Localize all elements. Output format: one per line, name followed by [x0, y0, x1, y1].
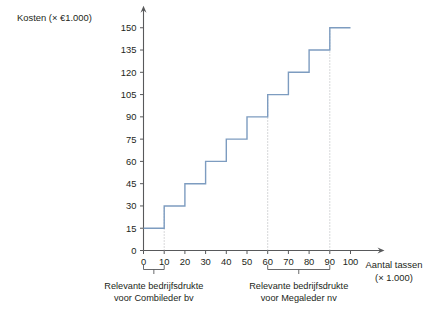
- x-tick-label: 90: [325, 256, 335, 267]
- x-tick-label: 30: [200, 256, 210, 267]
- step-cost-chart: Kosten (× €1.000) 0102030405060708090100…: [0, 0, 436, 325]
- range-caption-line1-combileder: Relevante bedrijfsdrukte: [104, 281, 203, 291]
- range-bracket-megaleder: [268, 265, 330, 270]
- x-tick-label: 10: [159, 256, 169, 267]
- x-axis-title: Aantal tassen: [366, 259, 423, 270]
- y-axis-tick-labels: 0153045607590105120135150: [121, 22, 137, 256]
- x-tick-label: 70: [283, 256, 293, 267]
- x-tick-label: 40: [221, 256, 231, 267]
- y-tick-label: 45: [126, 178, 136, 189]
- step-series: [144, 28, 351, 228]
- y-tick-label: 135: [121, 44, 137, 55]
- range-caption-line1-megaleder: Relevante bedrijfsdrukte: [249, 281, 348, 291]
- range-caption-line2-megaleder: voor Megaleder nv: [261, 293, 337, 303]
- y-tick-label: 60: [126, 156, 136, 167]
- y-tick-label: 90: [126, 111, 136, 122]
- x-tick-label: 0: [141, 256, 146, 267]
- y-tick-label: 75: [126, 134, 136, 145]
- x-tick-label: 20: [180, 256, 190, 267]
- x-axis-tick-labels: 0102030405060708090100: [141, 256, 358, 267]
- step-series-line: [144, 28, 351, 228]
- x-tick-label: 50: [242, 256, 252, 267]
- y-tick-label: 15: [126, 223, 136, 234]
- y-tick-label: 120: [121, 67, 137, 78]
- y-tick-label: 0: [131, 245, 136, 256]
- x-tick-label: 100: [343, 256, 359, 267]
- range-annotations: Relevante bedrijfsdruktevoor Combileder …: [104, 265, 348, 303]
- axes: [140, 6, 385, 254]
- range-caption-line2-combileder: voor Combileder bv: [114, 293, 194, 303]
- y-tick-label: 150: [121, 22, 137, 33]
- y-tick-label: 105: [121, 89, 137, 100]
- x-tick-label: 60: [262, 256, 272, 267]
- y-tick-label: 30: [126, 200, 136, 211]
- chart-figure: Kosten (× €1.000) 0102030405060708090100…: [0, 0, 436, 325]
- x-axis-unit-label: (× 1.000): [375, 272, 413, 283]
- x-tick-label: 80: [304, 256, 314, 267]
- y-axis-title: Kosten (× €1.000): [17, 12, 92, 23]
